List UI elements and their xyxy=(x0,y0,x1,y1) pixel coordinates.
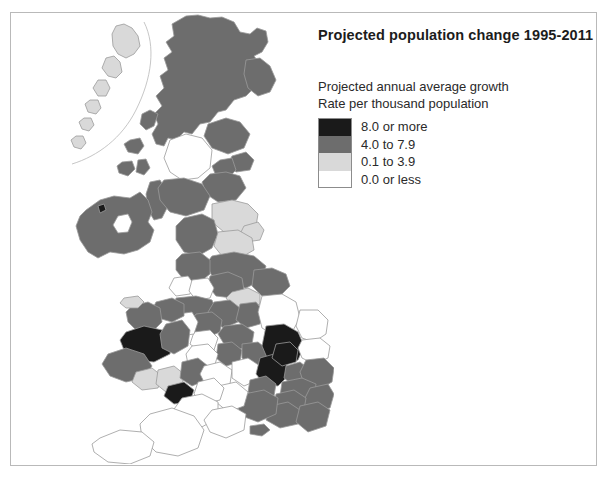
area-western-isles-6 xyxy=(71,136,86,149)
legend-swatch-0 xyxy=(318,118,352,136)
area-humberside xyxy=(252,268,290,296)
area-scotland-islay xyxy=(117,161,135,176)
map-page: Projected population change 1995-2011 Pr… xyxy=(0,0,608,477)
area-western-isles-2 xyxy=(102,56,122,78)
legend-label-1: 4.0 to 7.9 xyxy=(361,136,415,154)
area-strathclyde-glasgow xyxy=(164,134,212,180)
area-scotland-jura xyxy=(136,159,150,175)
area-norfolk xyxy=(296,310,328,342)
area-scotland-mull xyxy=(124,138,144,154)
legend-label-0: 8.0 or more xyxy=(361,118,427,136)
area-east-sussex xyxy=(296,402,330,432)
uk-choropleth-map xyxy=(14,14,334,464)
legend-item-1: 4.0 to 7.9 xyxy=(318,136,427,154)
area-western-isles-5 xyxy=(79,118,94,131)
legend-item-2: 0.1 to 3.9 xyxy=(318,153,427,171)
legend-heading-block: Projected annual average growth Rate per… xyxy=(318,79,568,112)
area-western-isles-4 xyxy=(85,100,101,114)
legend-item-3: 0.0 or less xyxy=(318,171,427,189)
area-western-isles xyxy=(112,24,140,58)
legend-heading-line-1: Projected annual average growth xyxy=(318,79,568,96)
legend-swatch-table: 8.0 or more 4.0 to 7.9 0.1 to 3.9 0.0 or… xyxy=(318,118,427,188)
legend-swatch-2 xyxy=(318,153,352,171)
legend-swatch-1 xyxy=(318,136,352,154)
legend-label-2: 0.1 to 3.9 xyxy=(361,153,415,171)
area-cumbria xyxy=(176,214,218,256)
page-title: Projected population change 1995-2011 xyxy=(318,27,593,43)
legend-swatch-3 xyxy=(318,171,352,189)
area-isle-of-wight xyxy=(250,424,270,436)
area-scotland-west-peninsula xyxy=(140,110,158,130)
area-western-isles-3 xyxy=(93,80,110,96)
area-cornwall xyxy=(92,430,154,464)
legend-heading-line-2: Rate per thousand population xyxy=(318,96,568,113)
legend-item-0: 8.0 or more xyxy=(318,118,427,136)
legend-label-3: 0.0 or less xyxy=(361,171,421,189)
area-powys-east xyxy=(160,320,190,354)
